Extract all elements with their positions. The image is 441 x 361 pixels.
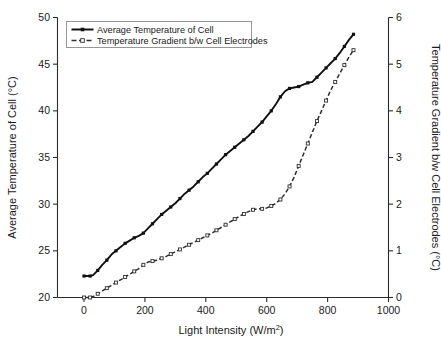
data-point	[83, 296, 86, 299]
data-point	[352, 33, 355, 36]
data-point	[151, 222, 154, 225]
x-tick-label: 0	[81, 304, 87, 316]
y-axis-left-title: Average Temperature of Cell (°C)	[6, 76, 18, 238]
data-point	[96, 292, 99, 295]
data-point	[88, 274, 91, 277]
data-point	[261, 120, 264, 123]
x-tick-label: 1000	[377, 304, 401, 316]
data-point	[197, 239, 200, 242]
data-point	[288, 185, 291, 188]
y-axis-right-ticks: 0123456	[389, 11, 403, 303]
chart-svg: 20253035404550 0123456 02004006008001000…	[0, 0, 441, 361]
x-title-main: Light Intensity (W/m	[178, 324, 275, 336]
data-point	[251, 130, 254, 133]
legend-swatch-marker	[81, 39, 85, 43]
y-tick-label-left: 35	[38, 151, 50, 163]
data-point	[334, 57, 337, 60]
data-point	[215, 229, 218, 232]
data-point	[324, 66, 327, 69]
y-tick-label-right: 2	[396, 198, 402, 210]
data-point	[242, 138, 245, 141]
data-point	[315, 76, 318, 79]
y-tick-label-right: 3	[396, 151, 402, 163]
data-point	[178, 248, 181, 251]
data-point	[233, 146, 236, 149]
y-axis-left-ticks: 20253035404550	[38, 11, 57, 303]
data-point	[224, 223, 227, 226]
data-point	[252, 208, 255, 211]
y-tick-label-right: 4	[396, 104, 402, 116]
data-point	[105, 287, 108, 290]
data-point	[169, 205, 172, 208]
data-point	[343, 64, 346, 67]
series-2	[83, 49, 355, 299]
data-point	[133, 236, 136, 239]
data-point	[270, 109, 273, 112]
data-point	[160, 213, 163, 216]
y-axis-right-title: Temperature Gradient b/w Cell Electrodes…	[430, 44, 441, 271]
legend-label: Temperature Gradient b/w Cell Electrodes	[97, 36, 268, 46]
data-point	[188, 243, 191, 246]
y-tick-label-right: 1	[396, 244, 402, 256]
series-line	[84, 34, 353, 276]
data-point	[105, 259, 108, 262]
data-point	[297, 164, 300, 167]
legend-swatch-marker	[81, 28, 85, 32]
data-point	[133, 270, 136, 273]
data-point	[242, 212, 245, 215]
series-1	[82, 33, 355, 278]
data-point	[197, 180, 200, 183]
data-point	[206, 172, 209, 175]
data-point	[206, 234, 209, 237]
y-tick-label-right: 0	[396, 291, 402, 303]
axis-titles: Light Intensity (W/m2) Average Temperatu…	[6, 44, 441, 336]
data-point	[306, 142, 309, 145]
y-tick-label-left: 45	[38, 58, 50, 70]
data-point	[151, 260, 154, 263]
data-point	[114, 249, 117, 252]
x-title-tail: )	[280, 324, 284, 336]
data-point	[124, 275, 127, 278]
y-tick-label-left: 40	[38, 104, 50, 116]
data-point	[233, 218, 236, 221]
data-point	[306, 81, 309, 84]
data-point	[325, 99, 328, 102]
x-axis-ticks: 02004006008001000	[81, 298, 400, 317]
x-tick-label: 800	[319, 304, 337, 316]
data-point	[142, 232, 145, 235]
data-point	[352, 49, 355, 52]
data-point	[160, 257, 163, 260]
data-point	[288, 87, 291, 90]
data-point	[315, 120, 318, 123]
data-point	[142, 263, 145, 266]
y-tick-label-left: 50	[38, 11, 50, 23]
data-point	[89, 296, 92, 299]
legend-entry-2: Temperature Gradient b/w Cell Electrodes	[72, 36, 268, 46]
data-point	[82, 274, 85, 277]
x-tick-label: 200	[136, 304, 154, 316]
data-point	[270, 205, 273, 208]
y-tick-label-left: 25	[38, 244, 50, 256]
data-series-layer	[82, 33, 355, 299]
data-point	[124, 242, 127, 245]
data-point	[96, 269, 99, 272]
y-tick-label-left: 30	[38, 198, 50, 210]
data-point	[261, 207, 264, 210]
y-tick-label-right: 5	[396, 58, 402, 70]
data-point	[224, 153, 227, 156]
x-tick-label: 400	[197, 304, 215, 316]
x-axis-title: Light Intensity (W/m2)	[178, 323, 283, 337]
data-point	[297, 85, 300, 88]
data-point	[169, 253, 172, 256]
data-point	[178, 197, 181, 200]
data-point	[279, 95, 282, 98]
data-point	[215, 162, 218, 165]
data-point	[114, 281, 117, 284]
chart-legend: Average Temperature of CellTemperature G…	[67, 22, 268, 48]
series-line	[84, 50, 353, 297]
y-tick-label-right: 6	[396, 11, 402, 23]
y-tick-label-left: 20	[38, 291, 50, 303]
data-point	[334, 80, 337, 83]
data-point	[343, 45, 346, 48]
chart-figure: 20253035404550 0123456 02004006008001000…	[0, 0, 441, 361]
